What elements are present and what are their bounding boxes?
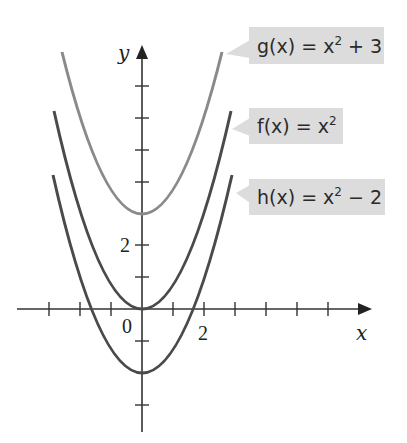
x-axis-label: x	[356, 321, 367, 345]
origin-label: 0	[122, 315, 132, 337]
x-tick-label-2: 2	[198, 322, 208, 344]
graph-figure: x y 0 2 2 g(x) = x2 + 3 f(x) = x2 h(x) =…	[0, 0, 407, 443]
label-g-suffix: + 3	[342, 35, 382, 57]
y-axis-arrow-icon	[136, 45, 148, 59]
y-axis-label: y	[117, 41, 130, 65]
label-h-prefix: h(x) = x	[257, 186, 334, 208]
label-h-exp: 2	[334, 185, 342, 199]
label-f-prefix: f(x) = x	[257, 115, 329, 137]
y-tick-label-2: 2	[120, 234, 130, 256]
svg-text:g(x) = x2 + 3: g(x) = x2 + 3	[257, 34, 382, 57]
label-g-prefix: g(x) = x	[257, 35, 334, 57]
label-f-exp: 2	[329, 114, 337, 128]
svg-text:h(x) = x2 − 2: h(x) = x2 − 2	[257, 185, 382, 208]
svg-text:f(x) = x2: f(x) = x2	[257, 114, 337, 137]
x-axis-arrow-icon	[358, 303, 372, 315]
label-h-suffix: − 2	[342, 186, 382, 208]
label-f: f(x) = x2	[232, 108, 343, 144]
label-g-exp: 2	[334, 34, 342, 48]
label-h: h(x) = x2 − 2	[236, 179, 385, 215]
label-g: g(x) = x2 + 3	[226, 27, 384, 64]
